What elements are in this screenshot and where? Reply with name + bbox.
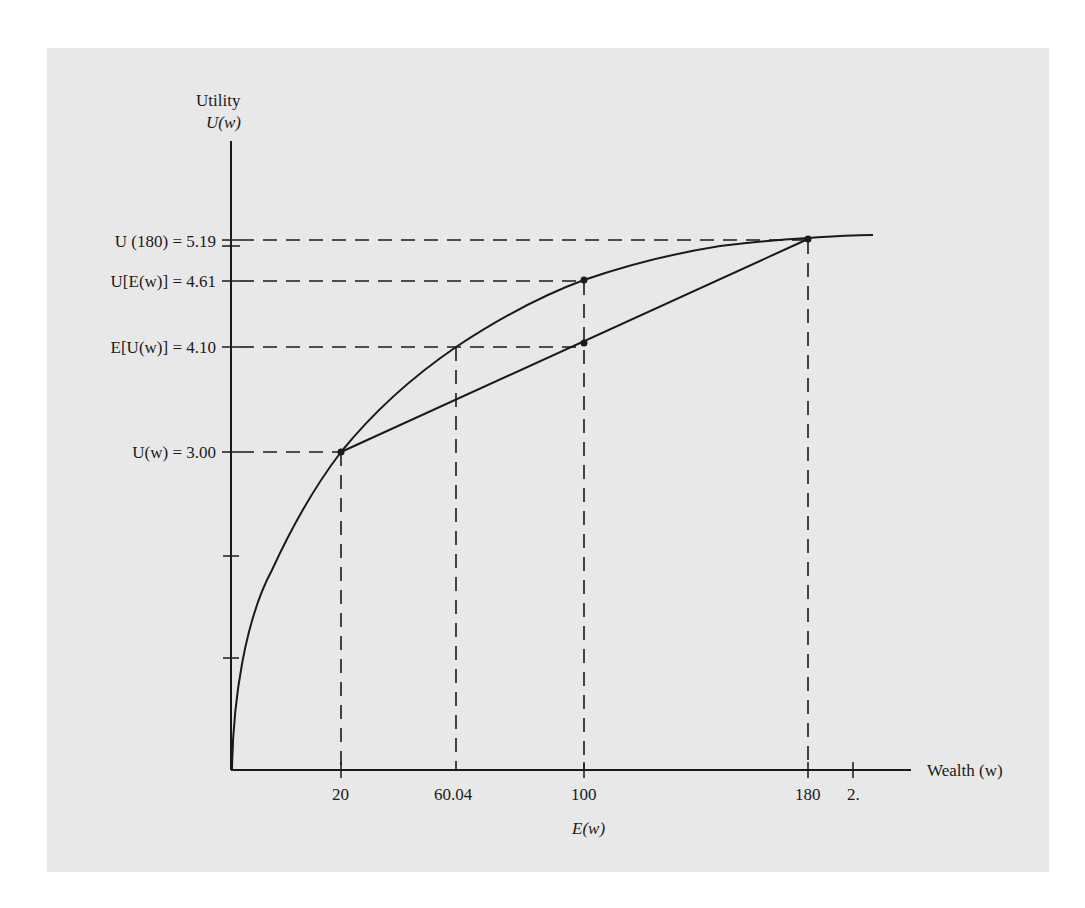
y-label-uew: U[E(w)] = 4.61 [16,273,216,290]
x-tick-2: 2. [847,786,860,803]
point-100-eu [581,340,588,347]
point-100-u [581,277,588,284]
point-20 [338,449,345,456]
x-tick-180: 180 [795,786,821,803]
x-tick-100: 100 [571,786,597,803]
y-axis-title: Utility [196,92,240,109]
utility-curve [232,235,873,770]
y-label-uw: U(w) = 3.00 [16,444,216,461]
dashed-guides [240,240,808,770]
x-tick-20: 20 [332,786,349,803]
x-tick-6004: 60.04 [434,786,472,803]
x-sublabel-ew: E(w) [572,820,605,837]
y-axis-symbol: U(w) [206,114,241,131]
chord-line [341,239,808,452]
y-label-euw: E[U(w)] = 4.10 [16,339,216,356]
y-label-u180: U (180) = 5.19 [16,233,216,250]
x-axis-title: Wealth (w) [927,762,1003,779]
point-180 [805,236,812,243]
